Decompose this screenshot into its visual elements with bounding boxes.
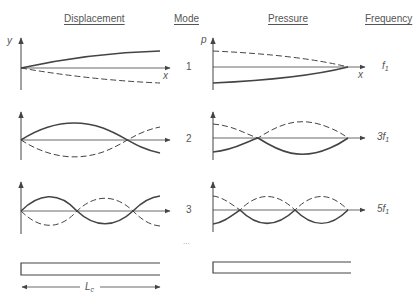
frequency-mode-2-sub: 1 <box>385 136 389 143</box>
tube-right <box>213 262 351 273</box>
tube-left <box>21 263 160 275</box>
axis-label-displacement-x: x <box>163 70 168 81</box>
frequency-mode-1-sub: 1 <box>385 65 389 72</box>
pressure-mode-3-plot <box>213 182 365 232</box>
axis-label-displacement-y: y <box>7 35 12 46</box>
tube-length-label: Lc <box>85 281 94 293</box>
mode-number-3: 3 <box>186 204 192 215</box>
mode-number-1: 1 <box>186 61 192 72</box>
displacement-mode-1-plot <box>21 38 170 90</box>
standing-wave-diagram <box>0 0 420 304</box>
displacement-mode-2-plot <box>21 112 170 160</box>
frequency-mode-3: 5f1 <box>377 203 389 215</box>
mode-ellipsis: ... <box>183 237 190 246</box>
pressure-mode-1-plot <box>213 38 365 90</box>
displacement-mode-3-plot <box>21 182 170 234</box>
frequency-mode-3-sub: 1 <box>385 208 389 215</box>
axis-label-pressure-x: x <box>358 69 363 80</box>
pressure-mode-2-plot <box>213 112 365 160</box>
axis-label-pressure-y: p <box>201 34 207 45</box>
frequency-mode-2: 3f1 <box>377 131 389 143</box>
tube-length-sub: c <box>91 286 95 293</box>
mode-number-2: 2 <box>186 133 192 144</box>
frequency-mode-1: f1 <box>382 60 389 72</box>
